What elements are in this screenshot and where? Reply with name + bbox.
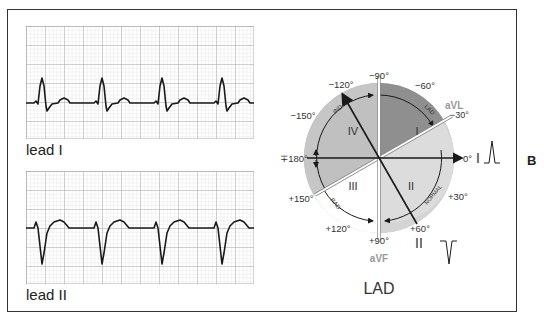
mini-complex-lead-1-positive <box>484 141 500 163</box>
angle-180: ∓180° <box>280 153 308 164</box>
panel-letter: B <box>527 153 536 168</box>
angle-minus-90: −90° <box>369 70 389 81</box>
avf-label: aVF <box>370 253 388 264</box>
angle-minus-60: −60° <box>415 80 435 91</box>
lead-2-axis-label: II <box>415 235 423 251</box>
angle-plus-90: +90° <box>369 235 389 246</box>
avl-label: aVL <box>445 100 463 111</box>
angle-plus-150: +150° <box>288 193 313 204</box>
mini-complex-lead-2-negative <box>440 241 457 264</box>
angle-0: 0° <box>463 153 472 164</box>
figure-title: LAD <box>363 280 394 297</box>
hexaxial-diagram: I II III IV IND LAD NORMAL RAD −90° −60°… <box>0 0 544 321</box>
quadrant-III-label: III <box>348 180 357 192</box>
lead-1-axis-label: I <box>476 150 480 166</box>
quadrant-II-label: II <box>408 180 414 192</box>
angle-minus-30: −30° <box>450 110 469 120</box>
angle-minus-150: −150° <box>290 110 315 121</box>
quadrant-IV-label: IV <box>348 125 359 137</box>
angle-plus-120: +120° <box>325 223 350 234</box>
angle-minus-120: −120° <box>328 79 353 90</box>
angle-plus-30: +30° <box>448 191 468 202</box>
angle-plus-60: +60° <box>410 223 430 234</box>
quadrant-I-label: I <box>415 125 418 137</box>
